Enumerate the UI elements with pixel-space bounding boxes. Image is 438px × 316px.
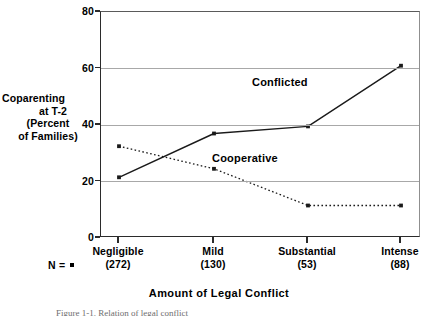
data-point-cooperative-0 — [117, 144, 121, 148]
gridline-60 — [101, 68, 419, 69]
n-equals-label: N = — [48, 259, 74, 271]
figure-container: Coparenting at T-2 (Percent of Families)… — [0, 0, 438, 316]
series-layer — [101, 12, 418, 235]
y-axis-title-line-1: Coparenting — [0, 92, 96, 105]
plot-area — [100, 11, 420, 237]
y-axis-title-line-2: at T-2 — [0, 105, 96, 118]
x-tick-label-0: Negligible — [63, 245, 173, 258]
y-axis-title-line-4: of Families) — [0, 130, 96, 143]
data-point-cooperative-3 — [399, 204, 403, 208]
x-tick-mark-0 — [117, 237, 119, 243]
y-tick-label-80: 80 — [48, 6, 94, 16]
y-tick-label-40: 40 — [48, 119, 94, 129]
figure-caption: Figure 1-1. Relation of legal conflict — [56, 308, 436, 316]
x-tick-mark-2 — [306, 237, 308, 243]
data-point-cooperative-1 — [212, 167, 216, 171]
y-tick-label-0: 0 — [48, 232, 94, 242]
data-point-conflicted-1 — [212, 132, 216, 136]
x-axis-title: Amount of Legal Conflict — [0, 287, 438, 299]
gridline-20 — [101, 181, 419, 182]
x-tick-group-3: Intense(88) — [345, 245, 438, 271]
x-tick-n-0: (272) — [63, 258, 173, 271]
y-tick-label-20: 20 — [48, 176, 94, 186]
x-tick-n-3: (88) — [345, 258, 438, 271]
x-tick-mark-1 — [212, 237, 214, 243]
data-point-conflicted-0 — [117, 175, 121, 179]
series-label-cooperative: Cooperative — [212, 152, 278, 164]
gridline-40 — [101, 125, 419, 126]
x-tick-group-0: Negligible(272) — [63, 245, 173, 271]
x-tick-mark-3 — [399, 237, 401, 243]
data-point-cooperative-2 — [306, 204, 310, 208]
series-label-conflicted: Conflicted — [252, 76, 308, 88]
y-tick-label-60: 60 — [48, 63, 94, 73]
n-equals-text: N = — [48, 259, 66, 271]
gridline-80 — [101, 12, 419, 13]
n-equals-square-icon — [70, 263, 74, 267]
x-tick-label-3: Intense — [345, 245, 438, 258]
